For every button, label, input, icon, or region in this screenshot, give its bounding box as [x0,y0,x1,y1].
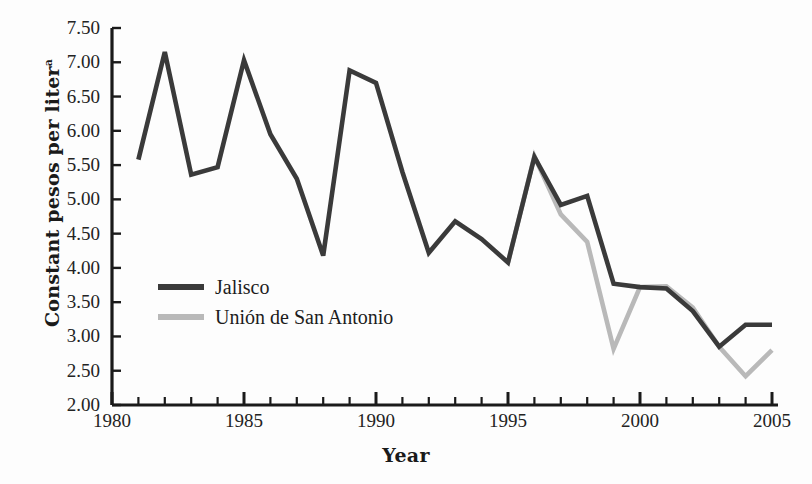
chart-figure: Constant pesos per litera 7.507.006.506.… [0,0,812,484]
chart-legend: JaliscoUnión de San Antonio [158,272,488,332]
legend-swatch-icon [158,314,204,320]
legend-label: Jalisco [215,276,269,299]
legend-item[interactable]: Unión de San Antonio [158,302,488,332]
legend-label: Unión de San Antonio [215,306,393,329]
legend-swatch-icon [158,284,204,290]
series-line-uni-n-de-san-antonio [508,156,772,376]
x-axis-title: Year [0,444,812,466]
legend-item[interactable]: Jalisco [158,272,488,302]
plot-area [0,0,812,484]
